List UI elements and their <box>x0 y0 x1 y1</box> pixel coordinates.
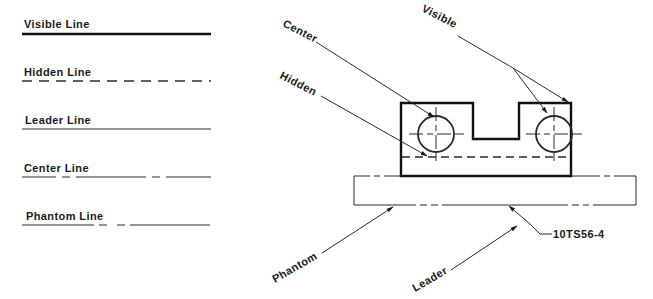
legend-item-visible: Visible Line <box>22 18 211 34</box>
part-drawing <box>354 103 636 205</box>
block-outline <box>401 103 571 176</box>
hidden-leader-arrow <box>321 96 427 156</box>
legend-item-center: Center Line <box>22 162 211 177</box>
legend-label-hidden: Hidden Line <box>24 66 91 78</box>
legend-label-center: Center Line <box>24 162 89 174</box>
left-hole <box>409 107 464 161</box>
callout-phantom-label: Phantom <box>270 249 319 284</box>
callout-visible-label: Visible <box>420 2 459 30</box>
legend-label-visible: Visible Line <box>24 18 90 30</box>
leader-leader-arrow <box>451 226 517 270</box>
right-hole <box>526 107 582 161</box>
part-number-leader-elbow <box>530 224 552 234</box>
part-number-leader-arrow <box>509 206 530 224</box>
visible-leader-arrow-edge <box>513 68 568 102</box>
callout-hidden-label: Hidden <box>278 69 319 98</box>
legend-item-hidden: Hidden Line <box>22 66 211 81</box>
callout-center-label: Center <box>281 17 320 45</box>
legend: Visible Line Hidden Line Leader Line Cen… <box>22 18 211 225</box>
base-plate-phantom <box>354 176 636 205</box>
line-types-diagram: Visible Line Hidden Line Leader Line Cen… <box>0 0 653 299</box>
callouts: Center Hidden Visible Phantom Leader 10T… <box>270 2 605 294</box>
legend-item-leader: Leader Line <box>22 114 211 129</box>
legend-label-leader: Leader Line <box>25 114 91 126</box>
visible-leader-line <box>458 36 513 68</box>
center-leader-arrow <box>316 42 434 117</box>
part-number-label: 10TS56-4 <box>553 228 605 240</box>
legend-item-phantom: Phantom Line <box>22 210 211 225</box>
callout-leader-label: Leader <box>410 264 450 294</box>
legend-label-phantom: Phantom Line <box>26 210 104 222</box>
phantom-leader-arrow <box>322 207 393 253</box>
